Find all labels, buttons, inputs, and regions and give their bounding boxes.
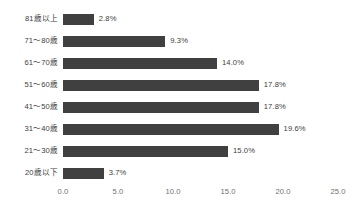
bar-row: 31～40歳19.6% bbox=[63, 118, 338, 140]
bar-track: 15.0% bbox=[63, 140, 338, 162]
bar-track: 3.7% bbox=[63, 162, 338, 184]
bar-track: 9.3% bbox=[63, 30, 338, 52]
bar[interactable] bbox=[63, 58, 217, 69]
category-label: 41～50歳 bbox=[25, 96, 59, 118]
bar-value-label: 3.7% bbox=[109, 162, 127, 184]
category-label: 21～30歳 bbox=[25, 140, 59, 162]
bar-track: 2.8% bbox=[63, 8, 338, 30]
x-tick-label: 15.0 bbox=[220, 186, 235, 198]
bar-value-label: 17.8% bbox=[264, 96, 286, 118]
bar-value-label: 2.8% bbox=[99, 8, 117, 30]
x-tick-label: 20.0 bbox=[275, 186, 290, 198]
bar-row: 81歳以上2.8% bbox=[63, 8, 338, 30]
bar[interactable] bbox=[63, 124, 279, 135]
bar-value-label: 15.0% bbox=[233, 140, 255, 162]
clipped-header-text bbox=[0, 0, 356, 5]
bar-track: 17.8% bbox=[63, 96, 338, 118]
x-tick-label: 0.0 bbox=[58, 186, 69, 198]
x-tick-label: 5.0 bbox=[113, 186, 124, 198]
category-label: 51～60歳 bbox=[25, 74, 59, 96]
bar[interactable] bbox=[63, 36, 165, 47]
category-label: 81歳以上 bbox=[25, 8, 58, 30]
bar[interactable] bbox=[63, 146, 228, 157]
bar[interactable] bbox=[63, 80, 259, 91]
bar-row: 41～50歳17.8% bbox=[63, 96, 338, 118]
bar-row: 61～70歳14.0% bbox=[63, 52, 338, 74]
bar[interactable] bbox=[63, 14, 94, 25]
bar[interactable] bbox=[63, 168, 104, 179]
bar-row: 51～60歳17.8% bbox=[63, 74, 338, 96]
plot-area: 81歳以上2.8%71～80歳9.3%61～70歳14.0%51～60歳17.8… bbox=[63, 8, 338, 184]
bar-track: 14.0% bbox=[63, 52, 338, 74]
x-axis: 0.05.010.015.020.025.0 bbox=[63, 186, 338, 200]
category-label: 31～40歳 bbox=[25, 118, 59, 140]
x-tick-label: 10.0 bbox=[165, 186, 180, 198]
bar-row: 71～80歳9.3% bbox=[63, 30, 338, 52]
x-tick-label: 25.0 bbox=[330, 186, 345, 198]
bar-row: 21～30歳15.0% bbox=[63, 140, 338, 162]
category-label: 71～80歳 bbox=[25, 30, 59, 52]
bar-track: 17.8% bbox=[63, 74, 338, 96]
category-label: 61～70歳 bbox=[25, 52, 59, 74]
category-label: 20歳以下 bbox=[25, 162, 58, 184]
bar-row: 20歳以下3.7% bbox=[63, 162, 338, 184]
bar-value-label: 17.8% bbox=[264, 74, 286, 96]
bar-value-label: 14.0% bbox=[222, 52, 244, 74]
bar[interactable] bbox=[63, 102, 259, 113]
bar-chart: 81歳以上2.8%71～80歳9.3%61～70歳14.0%51～60歳17.8… bbox=[0, 0, 356, 216]
bar-value-label: 19.6% bbox=[284, 118, 306, 140]
bar-value-label: 9.3% bbox=[170, 30, 188, 52]
bar-track: 19.6% bbox=[63, 118, 338, 140]
